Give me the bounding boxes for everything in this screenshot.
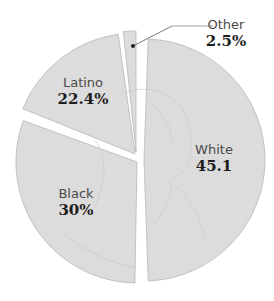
value-other: 2.5% <box>206 32 246 50</box>
label-white: White <box>195 142 233 157</box>
label-latino: Latino <box>63 75 103 90</box>
label-other: Other <box>208 17 246 32</box>
pie-chart: Other 2.5% Latino 22.4% White 45.1 Black… <box>0 0 274 301</box>
label-black: Black <box>58 186 94 201</box>
value-white: 45.1 <box>196 157 233 175</box>
value-black: 30% <box>58 201 93 219</box>
value-latino: 22.4% <box>58 90 109 108</box>
other-marker <box>131 44 135 48</box>
